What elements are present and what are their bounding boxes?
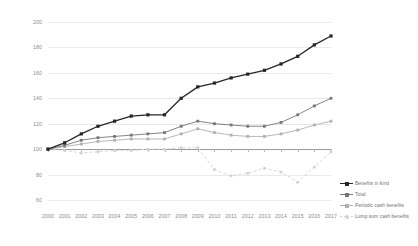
legend-label: Periodic cash benefits — [355, 203, 404, 208]
series-benefits-in-kind — [46, 34, 332, 150]
gridline-60 — [48, 200, 331, 201]
data-point — [313, 43, 316, 46]
data-point — [296, 55, 299, 58]
data-point — [113, 135, 116, 138]
legend-item-lump-sum-cash-benefits[interactable]: Lump sum cash benefits — [340, 211, 418, 222]
y-axis-label-120: 120 — [33, 121, 42, 127]
plot-area: 2001801601401201008060 20002001200220032… — [48, 22, 331, 200]
data-point — [263, 135, 266, 138]
data-point — [63, 141, 66, 144]
y-axis-label-160: 160 — [33, 70, 42, 76]
y-axis-label-80: 80 — [36, 172, 42, 178]
legend-swatch-icon — [340, 180, 353, 187]
chart-legend: Benefits in kindTotalPeriodic cash benef… — [340, 178, 418, 222]
legend-item-total[interactable]: Total — [340, 189, 418, 200]
data-point — [313, 165, 316, 168]
x-axis-label-2001: 2001 — [59, 213, 71, 219]
legend-label: Benefits in kind — [355, 181, 389, 186]
data-point — [280, 132, 283, 135]
data-point — [180, 146, 183, 149]
x-axis-label-2006: 2006 — [142, 213, 154, 219]
data-point — [230, 124, 233, 127]
y-axis-label-200: 200 — [33, 19, 42, 25]
data-point — [296, 113, 299, 116]
data-point — [130, 134, 133, 137]
data-point — [196, 146, 199, 149]
data-point — [296, 129, 299, 132]
data-point — [180, 132, 183, 135]
y-axis-label-180: 180 — [33, 44, 42, 50]
x-axis-label-2013: 2013 — [258, 213, 270, 219]
legend-label: Total — [355, 192, 366, 197]
data-point — [330, 120, 333, 123]
data-point — [213, 122, 216, 125]
series-lump-sum-cash-benefits — [47, 146, 333, 183]
x-axis-label-2003: 2003 — [92, 213, 104, 219]
x-axis-label-2005: 2005 — [125, 213, 137, 219]
data-point — [230, 174, 233, 177]
x-axis-label-2016: 2016 — [308, 213, 320, 219]
data-point — [263, 125, 266, 128]
data-point — [130, 149, 133, 152]
legend-swatch-icon — [340, 202, 353, 209]
data-point — [146, 138, 149, 141]
data-point — [313, 105, 316, 108]
data-point — [230, 134, 233, 137]
data-point — [163, 131, 166, 134]
legend-item-periodic-cash-benefits[interactable]: Periodic cash benefits — [340, 200, 418, 211]
data-point — [63, 149, 66, 152]
data-point — [246, 135, 249, 138]
data-point — [180, 97, 183, 100]
legend-item-benefits-in-kind[interactable]: Benefits in kind — [340, 178, 418, 189]
data-point — [96, 150, 99, 153]
series-lines — [48, 22, 331, 200]
legend-swatch-icon — [340, 213, 353, 220]
data-point — [163, 138, 166, 141]
data-point — [97, 136, 100, 139]
data-point — [196, 127, 199, 130]
data-point — [246, 125, 249, 128]
legend-swatch-icon — [340, 191, 353, 198]
data-point — [280, 171, 283, 174]
data-point — [163, 148, 166, 151]
data-point — [130, 138, 133, 141]
data-point — [146, 113, 149, 116]
data-point — [296, 181, 299, 184]
series-periodic-cash-benefits — [47, 120, 333, 151]
data-point — [230, 76, 233, 79]
data-point — [196, 85, 199, 88]
data-point — [330, 150, 333, 153]
x-axis-label-2008: 2008 — [175, 213, 187, 219]
data-point — [263, 69, 266, 72]
data-point — [279, 62, 282, 65]
data-point — [196, 120, 199, 123]
data-point — [246, 73, 249, 76]
data-point — [263, 167, 266, 170]
y-axis-label-100: 100 — [33, 146, 42, 152]
data-point — [246, 172, 249, 175]
x-axis-label-2017: 2017 — [325, 213, 337, 219]
data-point — [97, 140, 100, 143]
x-axis-label-2015: 2015 — [292, 213, 304, 219]
data-point — [146, 148, 149, 151]
data-point — [80, 151, 83, 154]
data-point — [213, 81, 216, 84]
data-point — [313, 124, 316, 127]
data-point — [213, 131, 216, 134]
data-point — [80, 139, 83, 142]
x-axis-label-2000: 2000 — [42, 213, 54, 219]
legend-label: Lump sum cash benefits — [355, 214, 409, 219]
x-axis-label-2010: 2010 — [208, 213, 220, 219]
data-point — [46, 148, 49, 151]
y-axis-label-140: 140 — [33, 95, 42, 101]
x-axis-label-2002: 2002 — [75, 213, 87, 219]
data-point — [80, 143, 83, 146]
x-axis-label-2011: 2011 — [225, 213, 237, 219]
x-axis-label-2014: 2014 — [275, 213, 287, 219]
x-axis-label-2007: 2007 — [159, 213, 171, 219]
data-point — [113, 149, 116, 152]
data-point — [113, 120, 116, 123]
data-point — [280, 121, 283, 124]
data-point — [80, 132, 83, 135]
data-point — [146, 132, 149, 135]
